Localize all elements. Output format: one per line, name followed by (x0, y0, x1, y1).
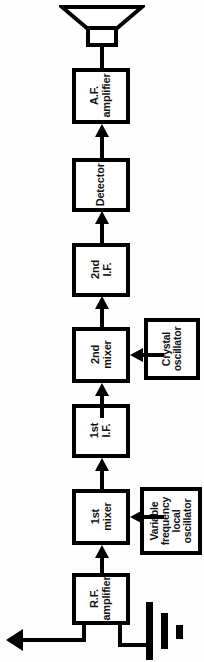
block-rf-amplifier: R.F. amplifier (72, 573, 130, 625)
block-label-first-if: 1st I.F. (89, 423, 112, 438)
block-label-variable-frequency-local-oscillator: Variable frequency local oscillator (149, 497, 193, 545)
arrowhead-first-if-to-second-mixer (95, 383, 109, 396)
wire-rf-amplifier-to-ground (118, 643, 148, 647)
ground-icon-bar-3 (176, 625, 183, 639)
loudspeaker-icon (59, 4, 145, 48)
block-label-second-if: 2nd I.F. (89, 261, 112, 280)
arrowhead-detector-to-af-amplifier (95, 124, 109, 137)
diagram-canvas: A.F. amplifier Detector 2nd I.F. 2nd mix… (0, 0, 204, 662)
arrowhead-rf-amplifier-to-first-mixer (95, 545, 109, 558)
ground-icon-bar-2 (161, 613, 168, 649)
block-crystal-oscillator: Crystal oscillator (144, 318, 200, 380)
wire-crystal-oscillator-to-second-mixer (143, 353, 164, 357)
arrowhead-first-mixer-to-first-if (95, 458, 109, 471)
block-detector: Detector (72, 158, 130, 212)
arrowhead-crystal-oscillator-to-second-mixer (130, 348, 143, 362)
wire-speaker-to-af-amplifier (100, 44, 104, 70)
block-variable-frequency-local-oscillator: Variable frequency local oscillator (140, 487, 202, 555)
block-second-if: 2nd I.F. (72, 243, 130, 297)
block-label-af-amplifier: A.F. amplifier (89, 74, 112, 118)
block-label-crystal-oscillator: Crystal oscillator (161, 327, 183, 372)
arrowhead-vfo-to-first-mixer (130, 510, 143, 524)
block-label-first-mixer: 1st mixer (89, 503, 112, 531)
arrowhead-second-if-to-detector (95, 211, 109, 224)
wire-first-if-to-second-mixer (100, 396, 104, 418)
block-label-detector: Detector (95, 163, 107, 206)
block-first-mixer: 1st mixer (72, 489, 130, 545)
wire-antenna-to-rf-amplifier (22, 638, 86, 642)
block-label-rf-amplifier: R.F. amplifier (89, 577, 112, 621)
block-af-amplifier: A.F. amplifier (72, 68, 130, 124)
ground-icon-bar-1 (146, 602, 153, 660)
arrowhead-second-mixer-to-second-if (95, 296, 109, 309)
block-second-mixer: 2nd mixer (72, 327, 130, 383)
antenna-icon (6, 629, 23, 651)
block-label-second-mixer: 2nd mixer (89, 341, 112, 369)
